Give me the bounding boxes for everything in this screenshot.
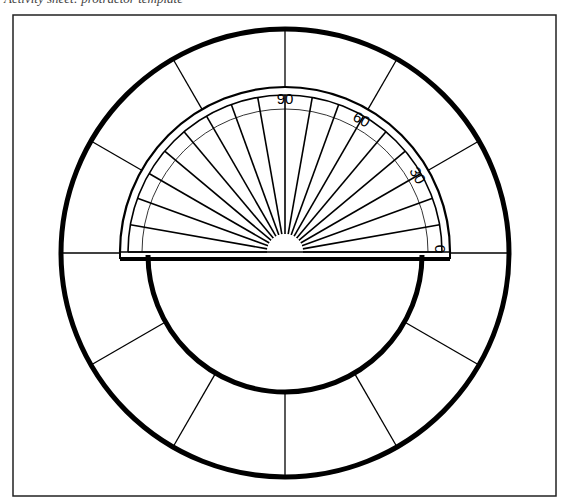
ring-spoke <box>368 59 398 110</box>
ring-spoke <box>173 59 203 110</box>
protractor-diagram: 9060300 <box>0 0 569 501</box>
ring-spoke <box>91 322 166 366</box>
ring-spoke <box>404 322 479 366</box>
ring-spoke <box>173 372 217 447</box>
protractor-label-0: 0 <box>432 245 449 253</box>
inner-semicircle <box>148 255 422 392</box>
ring-spoke <box>91 141 142 171</box>
protractor <box>120 87 450 259</box>
protractor-label-90: 90 <box>277 90 294 107</box>
ring-spoke <box>354 372 398 447</box>
ring-spoke <box>428 141 479 171</box>
